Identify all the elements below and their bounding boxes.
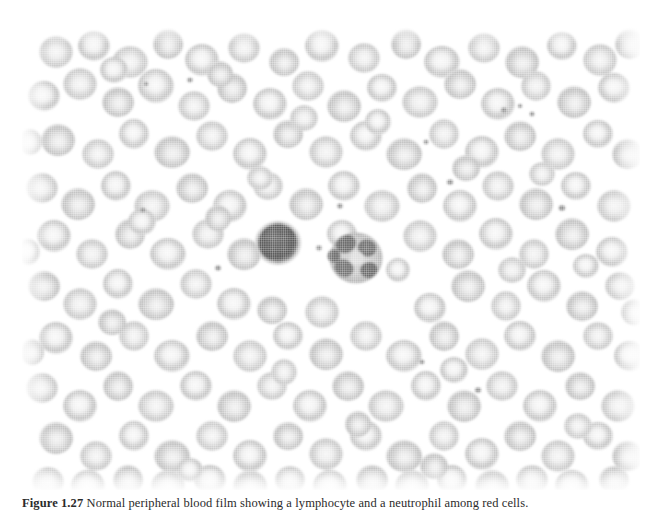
figure-caption: Figure 1.27 Normal peripheral blood film…	[22, 496, 634, 511]
scanned-page: Figure 1.27 Normal peripheral blood film…	[0, 0, 651, 514]
lymphocyte-cell	[255, 221, 301, 265]
figure-caption-text: Normal peripheral blood film showing a l…	[87, 496, 529, 510]
figure-plate-container	[0, 0, 651, 490]
cell-field	[22, 22, 640, 490]
blood-smear-micrograph	[22, 22, 640, 490]
figure-number: Figure 1.27	[22, 496, 83, 510]
